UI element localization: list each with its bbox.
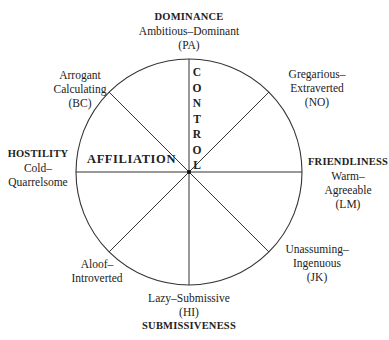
octant-lm-code: (LM) bbox=[303, 197, 389, 211]
pole-friendliness: FRIENDLINESS bbox=[303, 155, 389, 169]
control-letter: O bbox=[190, 143, 204, 159]
octant-hi-label: Lazy–Submissive (HI) SUBMISSIVENESS bbox=[119, 291, 259, 333]
octant-no-code: (NO) bbox=[277, 95, 357, 109]
octant-no-name-2: Extraverted bbox=[277, 81, 357, 95]
control-letter: R bbox=[190, 127, 204, 143]
octant-hi-name: Lazy–Submissive bbox=[119, 291, 259, 305]
octant-bc-code: (BC) bbox=[45, 96, 115, 110]
control-letter: N bbox=[190, 96, 204, 112]
octant-de-label: HOSTILITY Cold– Quarrelsome bbox=[0, 147, 76, 189]
octant-hi-code: (HI) bbox=[119, 305, 259, 319]
octant-jk-label: Unassuming– Ingenuous (JK) bbox=[272, 242, 362, 284]
pole-submissiveness: SUBMISSIVENESS bbox=[119, 319, 259, 333]
octant-de-name-2: Quarrelsome bbox=[0, 175, 76, 189]
control-axis-label: C O N T R O L bbox=[190, 65, 204, 174]
pole-dominance: DOMINANCE bbox=[119, 10, 259, 24]
octant-lm-name-1: Warm– bbox=[303, 169, 389, 183]
control-letter: O bbox=[190, 81, 204, 97]
octant-de-name-1: Cold– bbox=[0, 161, 76, 175]
affiliation-axis-label: AFFILIATION bbox=[87, 152, 176, 167]
octant-jk-name-2: Ingenuous bbox=[272, 256, 362, 270]
control-letter: T bbox=[190, 112, 204, 128]
octant-bc-label: Arrogant Calculating (BC) bbox=[45, 68, 115, 110]
octant-bc-name-1: Arrogant bbox=[45, 68, 115, 82]
control-letter: L bbox=[190, 158, 204, 174]
octant-jk-name-1: Unassuming– bbox=[272, 242, 362, 256]
control-letter: C bbox=[190, 65, 204, 81]
octant-pa-code: (PA) bbox=[119, 38, 259, 52]
octant-fg-label: Aloof– Introverted bbox=[62, 257, 132, 285]
octant-bc-name-2: Calculating bbox=[45, 82, 115, 96]
pole-hostility: HOSTILITY bbox=[0, 147, 76, 161]
octant-no-label: Gregarious– Extraverted (NO) bbox=[277, 67, 357, 109]
octant-lm-label: FRIENDLINESS Warm– Agreeable (LM) bbox=[303, 155, 389, 211]
octant-no-name-1: Gregarious– bbox=[277, 67, 357, 81]
octant-jk-code: (JK) bbox=[272, 270, 362, 284]
octant-lm-name-2: Agreeable bbox=[303, 183, 389, 197]
octant-pa-name: Ambitious–Dominant bbox=[119, 24, 259, 38]
octant-pa-label: DOMINANCE Ambitious–Dominant (PA) bbox=[119, 10, 259, 52]
octant-fg-name-1: Aloof– bbox=[62, 257, 132, 271]
octant-fg-name-2: Introverted bbox=[62, 271, 132, 285]
